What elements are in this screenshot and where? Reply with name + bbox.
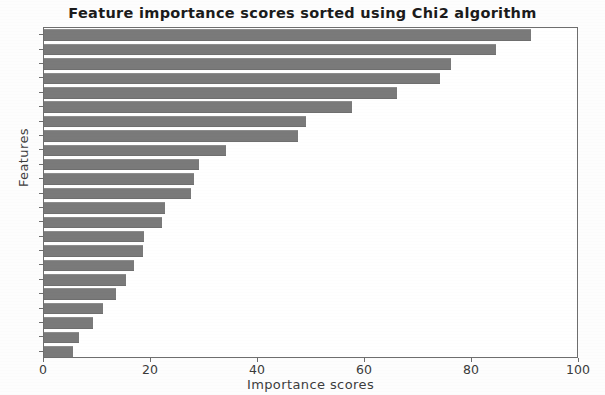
- y-tick-mark: [39, 193, 43, 194]
- y-tick-mark: [39, 178, 43, 179]
- y-tick-mark: [39, 264, 43, 265]
- y-tick-mark: [39, 207, 43, 208]
- x-tick-label: 60: [356, 362, 372, 377]
- y-tick-mark: [39, 236, 43, 237]
- y-tick-mark: [39, 221, 43, 222]
- page-title: Feature importance scores sorted using C…: [0, 5, 605, 21]
- bar[interactable]: [44, 346, 73, 358]
- x-axis-label: Importance scores: [43, 377, 578, 392]
- y-tick-mark: [39, 250, 43, 251]
- y-tick-mark: [39, 336, 43, 337]
- y-tick-mark: [39, 149, 43, 150]
- x-tick-label: 20: [142, 362, 158, 377]
- x-tick-label: 0: [39, 362, 47, 377]
- y-tick-mark: [39, 135, 43, 136]
- y-tick-mark: [39, 106, 43, 107]
- y-tick-mark: [39, 279, 43, 280]
- y-tick-mark: [39, 351, 43, 352]
- x-tick-label: 80: [463, 362, 479, 377]
- y-tick-mark: [39, 121, 43, 122]
- y-tick-mark: [39, 322, 43, 323]
- y-tick-mark: [39, 77, 43, 78]
- bar-row: [44, 28, 577, 357]
- x-tick-label: 40: [249, 362, 265, 377]
- chart-figure: Feature importance scores sorted using C…: [0, 0, 605, 395]
- plot-area: [43, 27, 578, 358]
- y-tick-mark: [39, 164, 43, 165]
- y-axis-label: Features: [16, 118, 31, 198]
- x-tick-label: 100: [566, 362, 590, 377]
- y-tick-mark: [39, 34, 43, 35]
- y-tick-mark: [39, 92, 43, 93]
- y-tick-mark: [39, 49, 43, 50]
- y-tick-mark: [39, 293, 43, 294]
- y-tick-mark: [39, 308, 43, 309]
- bar-series: [44, 28, 577, 357]
- y-tick-mark: [39, 63, 43, 64]
